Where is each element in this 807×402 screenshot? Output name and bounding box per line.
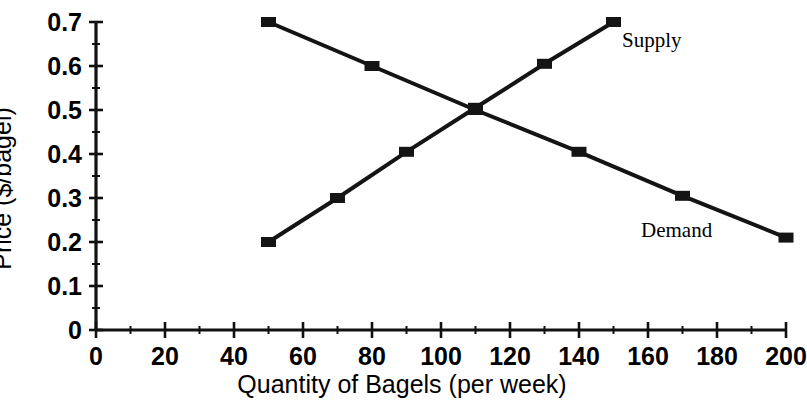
x-tick-label: 200 — [765, 344, 807, 369]
y-axis-title: Price ($/bagel) — [0, 107, 15, 270]
data-point-marker — [261, 17, 276, 27]
data-point-marker — [261, 237, 276, 247]
y-tick-label: 0.7 — [24, 10, 82, 35]
x-tick-label: 160 — [627, 344, 669, 369]
x-tick-label: 40 — [220, 344, 248, 369]
data-point-marker — [365, 61, 380, 71]
y-tick-label: 0.2 — [24, 230, 82, 255]
x-axis-title: Quantity of Bagels (per week) — [237, 372, 566, 397]
x-tick-label: 80 — [358, 344, 386, 369]
data-point-marker — [399, 147, 414, 157]
x-tick-label: 20 — [151, 344, 179, 369]
data-point-marker — [537, 59, 552, 69]
y-tick-label: 0.6 — [24, 54, 82, 79]
x-tick-label: 140 — [558, 344, 600, 369]
x-tick-label: 0 — [89, 344, 103, 369]
data-point-marker — [572, 147, 587, 157]
y-tick-label: 0.5 — [24, 98, 82, 123]
x-tick-label: 120 — [489, 344, 531, 369]
y-tick-label: 0.4 — [24, 142, 82, 167]
x-tick-label: 180 — [696, 344, 738, 369]
axes-group — [89, 21, 787, 338]
data-point-marker — [606, 17, 621, 27]
y-tick-label: 0.3 — [24, 186, 82, 211]
y-tick-label: 0.1 — [24, 274, 82, 299]
series-line-demand — [269, 22, 787, 238]
data-point-marker — [779, 233, 794, 243]
x-tick-label: 100 — [420, 344, 462, 369]
series-label-demand: Demand — [641, 220, 712, 241]
series-label-supply: Supply — [622, 30, 682, 51]
series-group — [261, 17, 794, 247]
x-tick-label: 60 — [289, 344, 317, 369]
series-line-supply — [269, 22, 614, 242]
y-tick-label: 0 — [24, 318, 82, 343]
data-point-marker — [330, 193, 345, 203]
data-point-marker — [675, 191, 690, 201]
data-point-marker — [468, 105, 483, 115]
